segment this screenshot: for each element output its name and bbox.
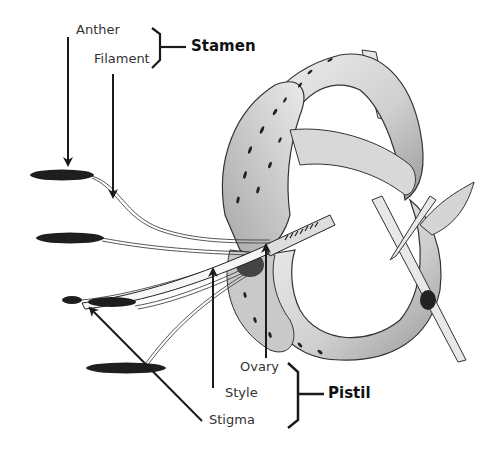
label-pistil: Pistil bbox=[328, 386, 371, 401]
label-ovary: Ovary bbox=[240, 360, 279, 373]
anther-2 bbox=[36, 233, 104, 244]
label-stigma: Stigma bbox=[209, 413, 255, 426]
lily-diagram: Anther Filament Stamen Ovary Style Stigm… bbox=[0, 0, 502, 456]
petal-left-spotted bbox=[222, 82, 303, 254]
petal-shadow bbox=[420, 290, 436, 310]
label-anther: Anther bbox=[76, 23, 120, 36]
label-style: Style bbox=[225, 386, 258, 399]
stigma-tip bbox=[62, 296, 82, 304]
label-filament: Filament bbox=[94, 52, 150, 65]
anther-1 bbox=[30, 170, 94, 181]
label-stamen: Stamen bbox=[191, 39, 256, 54]
pistil-brace bbox=[288, 363, 324, 428]
anther-3 bbox=[88, 297, 136, 307]
stamen-brace bbox=[152, 28, 186, 68]
